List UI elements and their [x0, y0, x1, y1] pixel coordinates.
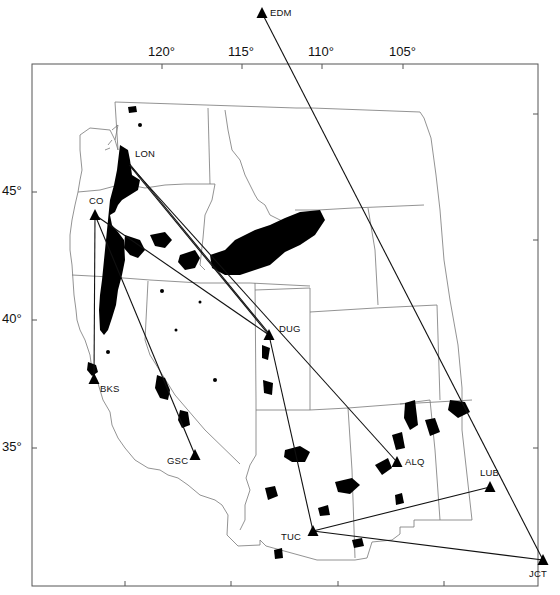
- station-label-co: CO: [89, 195, 104, 206]
- map-canvas: [0, 0, 560, 595]
- lava-dot: [175, 329, 178, 332]
- lava-dot: [199, 301, 202, 304]
- puget-sound: [105, 125, 118, 150]
- id-mt-border: [225, 110, 295, 225]
- latitude-label: 45°: [2, 183, 22, 198]
- lava-dot: [138, 123, 142, 127]
- ca-nv-border: [145, 281, 240, 464]
- station-triangle-icon: [90, 209, 101, 220]
- ray-path-co-bks: [94, 215, 95, 379]
- latitude-label: 40°: [2, 311, 22, 326]
- lava-nm-taos: [404, 400, 418, 430]
- wy-south-border: [310, 305, 437, 312]
- station-label-alq: ALQ: [405, 456, 425, 467]
- station-label-dug: DUG: [279, 323, 301, 334]
- lava-az-southeast: [318, 505, 330, 516]
- station-label-lub: LUB: [480, 467, 499, 478]
- longitude-label: 115°: [228, 44, 254, 59]
- lava-ore-small: [150, 232, 172, 248]
- lava-ut-black-rock: [263, 380, 273, 395]
- co-east-border: [437, 305, 440, 400]
- lava-ut-south: [262, 345, 270, 360]
- lava-snake-river-main: [210, 210, 325, 275]
- station-label-edm: EDM: [270, 7, 292, 18]
- wa-id-border: [208, 108, 210, 184]
- seismic-path-map: 120°115°110°105°45°40°35°EDMLONCOBKSDUGG…: [0, 0, 560, 595]
- ray-path-lon-alq: [125, 160, 397, 462]
- lava-nm-zuni: [335, 478, 360, 494]
- station-triangle-icon: [190, 449, 201, 460]
- id-ut-border: [250, 283, 310, 286]
- station-label-lon: LON: [135, 148, 155, 159]
- ray-path-tuc-jct: [313, 531, 543, 560]
- station-triangle-icon: [485, 481, 496, 492]
- ray-path-co-gsc: [95, 215, 195, 455]
- mt-wy-border: [295, 205, 424, 210]
- lava-dot: [213, 378, 217, 382]
- lava-oregon-plateau: [124, 235, 145, 258]
- az-west-border: [240, 455, 256, 530]
- lava-border: [352, 538, 364, 548]
- lava-nm-east: [425, 418, 440, 436]
- station-label-jct: JCT: [529, 568, 547, 579]
- lava-long-valley: [155, 375, 170, 400]
- lava-snake-river-west: [178, 250, 200, 270]
- lava-az-central: [265, 486, 278, 500]
- station-label-bks: BKS: [100, 383, 120, 394]
- station-label-gsc: GSC: [167, 455, 188, 466]
- longitude-label: 120°: [148, 44, 175, 59]
- ray-paths: [94, 13, 543, 560]
- lava-nm-raton: [448, 400, 470, 418]
- lava-wa-north: [128, 106, 137, 113]
- longitude-label: 105°: [389, 44, 416, 59]
- lava-nm-jemez: [375, 458, 392, 475]
- station-triangle-icon: [89, 373, 100, 384]
- station-markers: [89, 7, 549, 565]
- lava-border-west: [274, 548, 283, 559]
- nv-ut-border: [255, 283, 256, 455]
- ray-path-dug-tuc: [269, 335, 313, 531]
- lava-clear-lake: [87, 362, 98, 376]
- lava-dot: [160, 289, 164, 293]
- station-triangle-icon: [257, 7, 268, 18]
- lava-dot: [106, 350, 110, 354]
- latitude-label: 35°: [2, 439, 22, 454]
- station-label-tuc: TUC: [281, 531, 301, 542]
- lava-nm-central: [392, 432, 405, 450]
- longitude-label: 110°: [308, 44, 334, 59]
- lava-nm-carrizozo: [395, 493, 404, 505]
- four-corners-latitude: [256, 400, 472, 410]
- ray-path-edm-jct: [262, 13, 543, 560]
